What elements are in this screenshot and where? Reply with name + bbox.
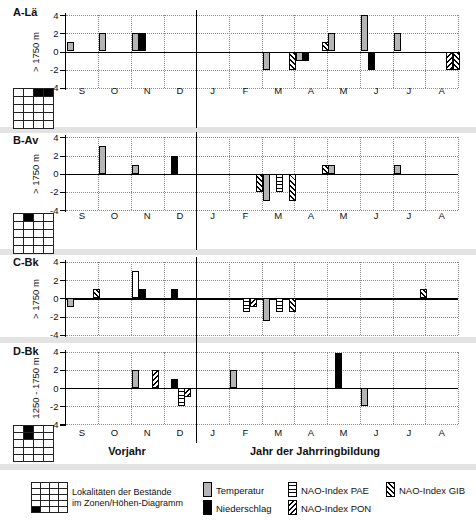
y-axis-tick	[60, 88, 65, 89]
grid-cell	[24, 238, 34, 246]
month-label: N	[131, 85, 163, 96]
grid-cell	[34, 246, 44, 254]
zero-line	[66, 298, 459, 299]
grid-cell	[24, 89, 34, 97]
bar-temp	[99, 146, 106, 173]
bar-gib	[453, 52, 460, 70]
grid-cell	[34, 455, 44, 462]
month-label: J	[393, 210, 425, 221]
grid-cell	[14, 230, 24, 238]
grid-cell	[44, 230, 54, 238]
tick-label: 0	[45, 168, 59, 179]
grid-cell	[24, 97, 34, 105]
grid-cell	[24, 121, 34, 129]
tick-label: 4	[45, 132, 59, 143]
legend-label-nao-pae: NAO-Index PAE	[301, 485, 369, 496]
tick-label: 2	[45, 28, 59, 39]
bar-precip	[139, 289, 146, 298]
month-label: M	[262, 427, 294, 438]
y-axis-tick	[60, 52, 65, 53]
grid-cell	[34, 222, 44, 230]
bar-temp	[230, 370, 237, 388]
y-axis-tick	[60, 424, 65, 425]
month-label: S	[66, 85, 98, 96]
tick-label: 2	[45, 275, 59, 286]
bar-temp	[99, 33, 106, 51]
month-label: S	[66, 210, 98, 221]
month-label: A	[295, 427, 327, 438]
grid-cell	[34, 105, 44, 113]
y-axis-tick	[60, 280, 65, 281]
month-label: A	[295, 85, 327, 96]
month-label: F	[229, 210, 261, 221]
bar-precip	[335, 353, 342, 388]
grid-cell	[14, 440, 24, 447]
grid-cell	[14, 448, 24, 455]
legend-label-temperature: Temperatur	[216, 485, 264, 496]
tick-label: 4	[45, 256, 59, 267]
month-label: J	[393, 85, 425, 96]
y-axis-tick	[60, 388, 65, 389]
legend-label-nao-pon: NAO-Index PON	[301, 503, 371, 514]
legend-label-nao-gib: NAO-Index GIB	[399, 485, 465, 496]
grid-cell	[44, 113, 54, 121]
grid-cell	[34, 238, 44, 246]
month-label: M	[262, 85, 294, 96]
month-label: O	[99, 427, 131, 438]
grid-cell	[14, 455, 24, 462]
zero-line	[66, 52, 459, 53]
grid-cell	[14, 222, 24, 230]
month-label: M	[328, 210, 360, 221]
y-axis-tick	[60, 15, 65, 16]
bar-temp	[361, 388, 368, 406]
bar-gib	[420, 289, 427, 298]
grid-cell	[34, 440, 44, 447]
grid-cell	[34, 433, 44, 440]
grid-cell	[24, 222, 34, 230]
bar-pon	[152, 370, 159, 388]
elevation-label-b: > 1750 m	[30, 134, 42, 214]
grid-cell	[44, 121, 54, 129]
month-label: N	[131, 210, 163, 221]
elevation-label-a: > 1750 m	[30, 12, 42, 92]
tick-label: 0	[45, 383, 59, 394]
legend-label-precipitation: Niederschlag	[216, 503, 271, 514]
y-axis-tick	[60, 370, 65, 371]
month-label: J	[360, 427, 392, 438]
month-label: J	[360, 210, 392, 221]
month-label: D	[164, 427, 196, 438]
y-axis-tick	[60, 156, 65, 157]
year-divider-line	[196, 257, 198, 444]
grid-cell	[14, 433, 24, 440]
month-label: O	[99, 210, 131, 221]
grid-cell	[24, 246, 34, 254]
month-label: N	[131, 427, 163, 438]
grid-cell	[14, 214, 24, 222]
tick-label: 0	[45, 293, 59, 304]
bar-pon	[184, 388, 191, 397]
legend-swatch-nao-gib	[386, 482, 395, 497]
grid-cell	[34, 448, 44, 455]
grid-cell	[24, 448, 34, 455]
grid-cell	[24, 113, 34, 121]
bar-temp	[328, 33, 335, 51]
gridline-horizontal	[66, 335, 459, 336]
month-label: A	[295, 210, 327, 221]
grid-cell	[44, 426, 54, 433]
grid-cell	[14, 97, 24, 105]
locality-grid-a	[13, 88, 54, 129]
grid-cell	[44, 105, 54, 113]
month-label: A	[426, 427, 458, 438]
month-label: O	[99, 85, 131, 96]
tick-label: -2	[45, 401, 59, 412]
legend-swatch-temperature	[203, 482, 212, 497]
year-divider-line	[196, 10, 198, 128]
month-label: A	[426, 210, 458, 221]
grid-cell	[34, 113, 44, 121]
elevation-label-d: 1250 - 1750 m	[30, 348, 42, 428]
gridline-vertical	[458, 137, 459, 210]
grid-cell	[44, 214, 54, 222]
y-axis-tick	[60, 192, 65, 193]
legend-grid-caption-line2: im Zonen/Höhen-Diagramm	[72, 498, 183, 509]
grid-cell	[44, 455, 54, 462]
